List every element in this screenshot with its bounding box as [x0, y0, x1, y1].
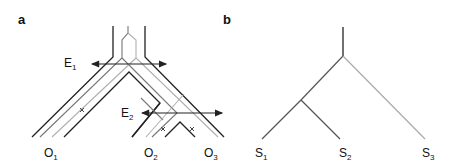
internal-branch: [301, 56, 343, 100]
branch-s2: [301, 100, 340, 139]
species-tree-tubes: [0, 0, 227, 168]
panel-b-species-tree: b S1 S2 S3: [227, 0, 454, 168]
branch-s3: [343, 56, 425, 139]
species-tree: [227, 0, 454, 168]
tip-o3-label: O3: [204, 146, 218, 162]
tip-o1-label: O1: [44, 146, 58, 162]
loss-marks: [80, 108, 194, 131]
tip-o2-label: O2: [144, 146, 158, 162]
gene-lineages-mid: [40, 26, 177, 137]
panel-a-gene-tree-in-species-tree: a: [0, 0, 227, 168]
event-e2-label: E2: [121, 106, 133, 122]
branch-s1: [262, 100, 301, 139]
loss-mark-icon: [161, 127, 165, 131]
gene-lineages-light: [52, 33, 218, 137]
tip-s1-label: S1: [255, 146, 267, 162]
tip-s2-label: S2: [339, 146, 351, 162]
tip-s3-label: S3: [422, 146, 434, 162]
loss-mark-icon: [190, 127, 194, 131]
event-e1-label: E1: [64, 56, 76, 72]
